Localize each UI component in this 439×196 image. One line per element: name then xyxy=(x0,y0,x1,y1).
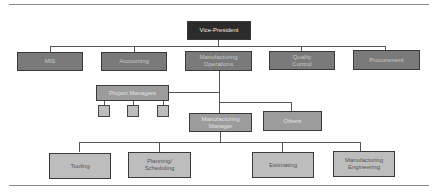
node-label: MIS xyxy=(45,58,56,65)
node-label: Tooling xyxy=(70,163,89,170)
node-label: Manufacturing xyxy=(199,54,237,61)
node-project-manager-1 xyxy=(98,105,110,117)
node-manufacturing-manager: Manufacturing Manager xyxy=(189,113,252,132)
node-others: Others xyxy=(263,111,322,131)
top-rule xyxy=(9,4,429,5)
node-quality-control: Quality Control xyxy=(269,51,335,70)
connector-vp-down xyxy=(218,39,219,46)
node-mis: MIS xyxy=(17,52,83,71)
node-label: Manager xyxy=(209,123,233,130)
node-manufacturing-operations: Manufacturing Operations xyxy=(185,51,252,71)
node-label: Accounting xyxy=(119,58,149,65)
node-vice-president: Vice-President xyxy=(187,21,251,40)
connector-others-bus xyxy=(219,102,292,103)
connector-mgr-down xyxy=(220,132,221,142)
connector-others xyxy=(291,102,292,111)
node-project-managers: Project Managers xyxy=(96,85,169,101)
node-label: Quality xyxy=(293,54,312,61)
connector-pm xyxy=(168,92,219,93)
node-project-manager-2 xyxy=(127,105,139,117)
node-label: Operations xyxy=(204,61,233,68)
node-label: Manufacturing xyxy=(345,157,383,164)
node-planning-scheduling: Planning/ Scheduling xyxy=(128,152,191,178)
connector-level3-bus xyxy=(79,142,361,143)
connector-ops-down xyxy=(219,71,220,113)
node-label: Procurement xyxy=(369,57,403,64)
node-tooling: Tooling xyxy=(49,153,111,179)
node-label: Planning/ xyxy=(147,158,172,165)
connector-planning xyxy=(159,142,160,152)
node-project-manager-3 xyxy=(157,105,169,117)
node-label: Estimating xyxy=(269,162,297,169)
node-label: Others xyxy=(283,118,301,125)
node-label: Manufacturing xyxy=(201,116,239,123)
node-label: Vice-President xyxy=(200,27,239,34)
node-label: Engineering xyxy=(348,164,380,171)
connector-estimating xyxy=(282,142,283,152)
node-label: Control xyxy=(292,61,311,68)
connector-tooling xyxy=(79,142,80,152)
node-estimating: Estimating xyxy=(252,152,314,178)
connector-level1-bus xyxy=(50,46,386,47)
node-procurement: Procurement xyxy=(353,50,420,70)
bottom-rule xyxy=(9,185,429,186)
node-manufacturing-engineering: Manufacturing Engineering xyxy=(333,151,395,177)
node-accounting: Accounting xyxy=(101,52,167,71)
node-label: Project Managers xyxy=(109,90,156,97)
node-label: Scheduling xyxy=(145,165,175,172)
